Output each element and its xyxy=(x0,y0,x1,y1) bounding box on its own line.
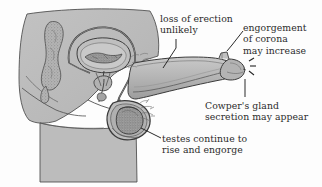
annotation-cowpers-gland-secretion: Cowper's gland secretion may appear xyxy=(205,100,308,123)
annotation-line: rise and engorge xyxy=(162,144,247,155)
annotation-line: Cowper's gland xyxy=(205,100,308,111)
penis-shaft xyxy=(128,57,233,99)
figure-canvas: loss of erection unlikely engorgement of… xyxy=(0,0,322,187)
testis xyxy=(116,107,143,134)
annotation-loss-of-erection: loss of erection unlikely xyxy=(160,13,233,36)
annotation-line: may increase xyxy=(243,45,307,56)
scrotum xyxy=(107,101,150,140)
annotation-testes-continue-to-rise: testes continue to rise and engorge xyxy=(162,133,247,156)
corona xyxy=(219,52,229,59)
bladder xyxy=(77,38,130,73)
annotation-line: engorgement xyxy=(243,22,307,33)
annotation-line: of corona xyxy=(243,33,307,44)
secretion-marks xyxy=(249,58,256,75)
annotation-line: secretion may appear xyxy=(205,111,308,122)
annotation-engorgement-of-corona: engorgement of corona may increase xyxy=(243,22,307,56)
annotation-line: loss of erection xyxy=(160,13,233,24)
annotation-line: unlikely xyxy=(160,24,233,35)
cowpers-gland-organ xyxy=(97,93,106,101)
annotation-line: testes continue to xyxy=(162,133,247,144)
